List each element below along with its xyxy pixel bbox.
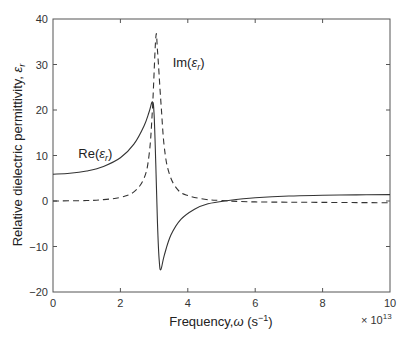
y-tick-label: 40 [36,13,48,25]
y-tick-label: 0 [42,195,48,207]
annotation-re: Re(εr) [78,146,112,163]
x-tick-label: 4 [185,297,191,309]
y-tick-label: −20 [29,286,48,298]
x-tick-label: 2 [117,297,123,309]
permittivity-chart: 0246810−20−10010203040 Re(εr) Im(εr) Fre… [0,0,405,340]
x-axis-multiplier: × 1013 [361,312,392,326]
y-tick-label: −10 [29,241,48,253]
y-tick-label: 20 [36,104,48,116]
x-axis-title: Frequency,ω (s−1) [169,313,272,329]
annotation-im: Im(εr) [173,55,205,72]
y-tick-label: 10 [36,150,48,162]
y-axis-title: Relative dielectric permittivity, εr [10,63,27,247]
x-tick-label: 6 [252,297,258,309]
y-tick-label: 30 [36,59,48,71]
x-tick-label: 0 [50,297,56,309]
x-tick-label: 10 [384,297,396,309]
x-tick-label: 8 [320,297,326,309]
